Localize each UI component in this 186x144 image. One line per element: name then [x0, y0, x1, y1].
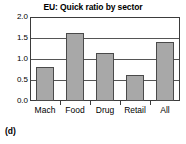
- bar-retail: [126, 75, 145, 101]
- panel-caption: (d): [5, 126, 16, 137]
- x-axis: MachFoodDrugRetailAll: [30, 104, 180, 118]
- x-tick-label-all: All: [150, 104, 180, 116]
- bar-all: [156, 42, 175, 101]
- bar-drug: [96, 53, 115, 101]
- y-tick-label: 2.0: [1, 13, 28, 21]
- y-tick-label: 1.5: [1, 34, 28, 42]
- x-tick-label-food: Food: [60, 104, 90, 116]
- x-tick-label-drug: Drug: [90, 104, 120, 116]
- bar-mach: [36, 67, 55, 101]
- bar-series: [30, 17, 180, 101]
- x-tick-label-mach: Mach: [30, 104, 60, 116]
- y-tick-label: 1.0: [1, 55, 28, 63]
- y-tick-label: 0.5: [1, 76, 28, 84]
- x-tick-label-retail: Retail: [120, 104, 150, 116]
- bar-food: [66, 33, 85, 101]
- y-axis: 0.00.51.01.52.0: [0, 0, 28, 144]
- y-tick-label: 0.0: [1, 97, 28, 105]
- figure-panel: EU: Quick ratio by sector 0.00.51.01.52.…: [0, 0, 186, 144]
